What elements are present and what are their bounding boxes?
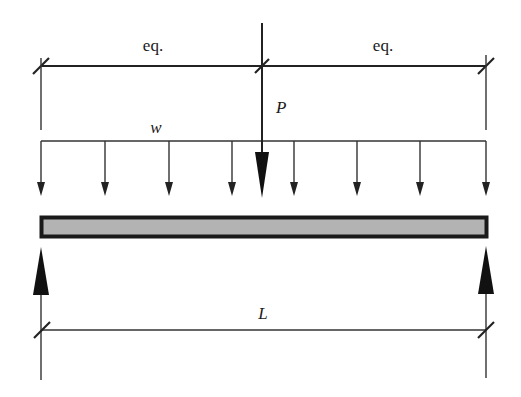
load-arrowhead-icon [416,182,424,196]
load-arrowhead-icon [353,182,361,196]
top-dimension: eq. eq. [33,36,494,74]
load-arrowhead-icon [165,182,173,196]
load-arrowhead-icon [37,182,45,196]
load-arrowhead-icon [101,182,109,196]
point-load-arrowhead-icon [255,152,269,198]
left-span-label: eq. [143,36,163,55]
bottom-dimension: L [34,304,494,338]
reaction-arrow-right-icon [478,246,494,294]
load-arrowhead-icon [228,182,236,196]
load-arrowhead-icon [482,182,490,196]
point-load: P [255,23,286,198]
beam-diagram: eq. eq. w P [0,0,521,397]
point-load-label: P [275,98,286,117]
distributed-load-label: w [150,118,162,137]
load-arrowhead-icon [290,182,298,196]
support-right [478,246,494,378]
reaction-arrow-left-icon [33,247,49,295]
beam [42,218,487,237]
right-span-label: eq. [373,36,393,55]
beam-length-label: L [257,304,267,323]
support-left [33,247,49,380]
